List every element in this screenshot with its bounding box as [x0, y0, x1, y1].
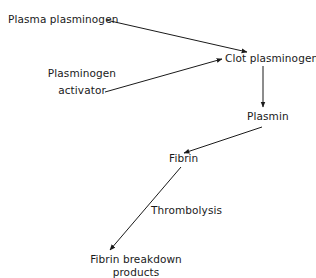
node-clot-plasminogen: Clot plasminogen — [225, 52, 316, 65]
node-plasminogen-activator: Plasminogen activator — [45, 67, 119, 97]
node-plasminogen-activator-line2: activator — [45, 84, 119, 97]
node-fibrin-breakdown-products-line1: Fibrin breakdown — [84, 253, 188, 266]
edge-label-thrombolysis: Thrombolysis — [151, 204, 222, 217]
node-plasma-plasminogen: Plasma plasminogen — [8, 13, 118, 26]
diagram-edges — [0, 0, 316, 278]
edge-activator-to-clot — [105, 59, 222, 92]
edge-plasmin-to-fibrin — [184, 127, 262, 153]
node-plasminogen-activator-line1: Plasminogen — [45, 67, 119, 80]
node-fibrin-breakdown-products: Fibrin breakdown products — [84, 253, 188, 278]
node-plasmin: Plasmin — [247, 110, 289, 123]
edge-plasma-to-clot — [106, 20, 247, 52]
node-fibrin: Fibrin — [169, 152, 198, 165]
node-fibrin-breakdown-products-line2: products — [84, 266, 188, 278]
